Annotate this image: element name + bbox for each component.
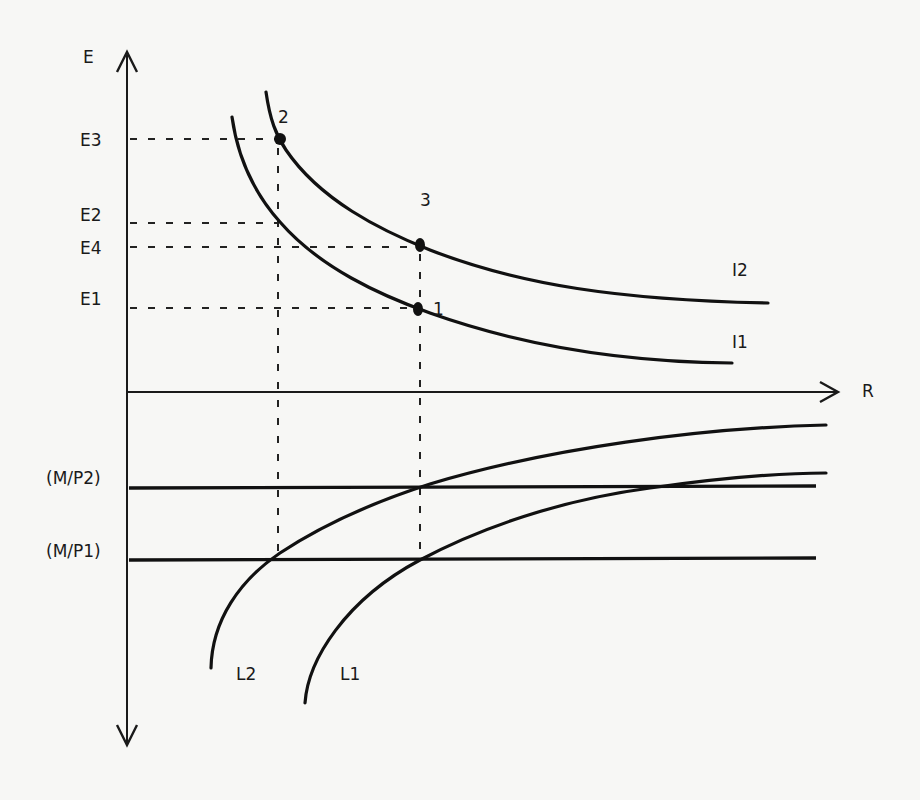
curve-label-L2: L2	[236, 666, 256, 683]
curve-label-I1: I1	[732, 334, 748, 351]
point-1	[413, 302, 423, 316]
point-label-2: 2	[278, 109, 289, 126]
axis-label-E: E	[83, 49, 94, 66]
level-label-MP1: (M/P1)	[46, 543, 101, 560]
point-3	[415, 238, 425, 252]
level-label-E2: E2	[80, 207, 102, 224]
curve-L1	[305, 473, 826, 703]
level-label-E1: E1	[80, 291, 102, 308]
level-label-E4: E4	[80, 240, 102, 257]
curve-label-I2: I2	[732, 262, 748, 279]
line-MP2	[129, 486, 816, 488]
level-label-MP2: (M/P2)	[46, 470, 101, 487]
curve-I1	[232, 117, 732, 363]
point-2	[274, 133, 286, 145]
curve-label-L1: L1	[340, 666, 360, 683]
point-label-1: 1	[433, 301, 444, 318]
axis-label-R: R	[862, 383, 874, 400]
level-label-E3: E3	[80, 132, 102, 149]
line-MP1	[129, 558, 816, 560]
curve-L2	[211, 425, 826, 668]
point-label-3: 3	[420, 192, 431, 209]
economics-diagram	[0, 0, 920, 800]
